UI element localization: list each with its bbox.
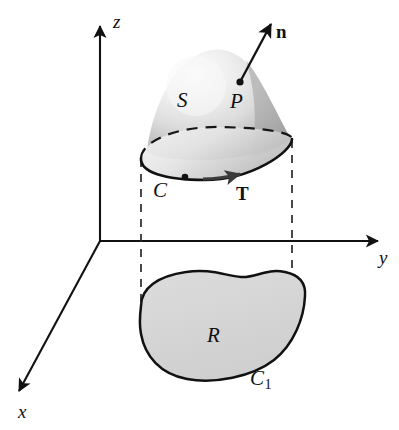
axis-z-label: z bbox=[113, 12, 120, 31]
axis-x-label: x bbox=[18, 402, 26, 421]
curve-c1-subscript: 1 bbox=[264, 376, 272, 392]
region-r bbox=[140, 271, 305, 381]
surface-highlight bbox=[166, 56, 226, 116]
curve-c-label: C bbox=[153, 180, 167, 201]
point-p-marker bbox=[236, 78, 243, 85]
curve-c-point bbox=[182, 174, 189, 181]
surface-s-label: S bbox=[177, 90, 188, 111]
curve-c1-label: C1 bbox=[250, 368, 272, 391]
diagram-graphics bbox=[0, 0, 399, 430]
curve-c1-letter: C bbox=[250, 366, 264, 390]
figure-canvas: z y x S P n C T R C1 bbox=[0, 0, 399, 430]
axis-x bbox=[19, 241, 100, 391]
point-p-label: P bbox=[230, 91, 243, 112]
tangent-vector-label: T bbox=[236, 184, 249, 203]
region-r-label: R bbox=[207, 325, 220, 346]
region-r-outline bbox=[140, 271, 305, 381]
axis-y-label: y bbox=[379, 248, 387, 267]
normal-vector-label: n bbox=[276, 22, 287, 41]
